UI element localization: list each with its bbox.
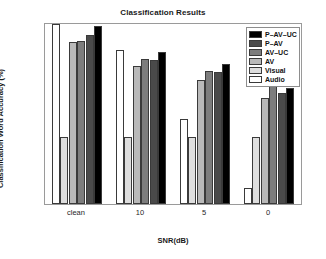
chart-figure: Classification Results Classification Wo… bbox=[0, 0, 326, 259]
legend-swatch-icon bbox=[249, 49, 262, 56]
x-axis-tick-label: 0 bbox=[248, 208, 288, 217]
x-axis-tick bbox=[205, 23, 206, 24]
bar-group bbox=[116, 24, 167, 204]
bar-av-10 bbox=[133, 66, 141, 204]
x-axis-tick-label: 5 bbox=[184, 208, 224, 217]
y-axis-tick bbox=[44, 96, 45, 97]
x-axis-tick bbox=[269, 204, 270, 205]
legend-item-av-uc[interactable]: AV–UC bbox=[249, 48, 297, 57]
legend-item-label: P–AV–UC bbox=[265, 30, 297, 39]
bar-p-av-10 bbox=[150, 60, 158, 204]
legend-item-av[interactable]: AV bbox=[249, 57, 297, 66]
bar-audio-0 bbox=[244, 188, 252, 204]
bar-av-uc-5 bbox=[205, 71, 213, 204]
chart-legend: P–AV–UCP–AVAV–UCAVVisualAudio bbox=[246, 27, 300, 87]
bar-group bbox=[52, 24, 103, 204]
x-axis-tick bbox=[77, 204, 78, 205]
x-axis-tick bbox=[269, 23, 270, 24]
bar-audio-clean bbox=[52, 24, 60, 204]
legend-item-p-av-uc[interactable]: P–AV–UC bbox=[249, 30, 297, 39]
bar-group bbox=[180, 24, 231, 204]
legend-item-label: Visual bbox=[265, 66, 286, 75]
legend-swatch-icon bbox=[249, 58, 262, 65]
bar-av-0 bbox=[261, 98, 269, 204]
x-axis-tick bbox=[77, 23, 78, 24]
y-axis-tick bbox=[44, 168, 45, 169]
y-axis-title: Classification Word Accuracy (%) bbox=[0, 48, 5, 208]
bar-p-av-5 bbox=[214, 72, 222, 204]
bar-p-av-uc-5 bbox=[222, 64, 230, 204]
bar-av-uc-10 bbox=[141, 59, 149, 204]
bar-av-clean bbox=[69, 42, 77, 204]
legend-item-audio[interactable]: Audio bbox=[249, 75, 297, 84]
bar-p-av-uc-10 bbox=[158, 52, 166, 204]
x-axis-tick-label: clean bbox=[56, 208, 96, 217]
bar-visual-10 bbox=[124, 137, 132, 204]
x-axis-tick-label: 10 bbox=[120, 208, 160, 217]
bar-visual-5 bbox=[188, 137, 196, 204]
y-axis-tick bbox=[44, 132, 45, 133]
bar-p-av-0 bbox=[278, 93, 286, 204]
y-axis-tick bbox=[301, 96, 302, 97]
x-axis-tick bbox=[141, 23, 142, 24]
y-axis-tick bbox=[301, 132, 302, 133]
legend-swatch-icon bbox=[249, 31, 262, 38]
legend-item-label: P–AV bbox=[265, 39, 283, 48]
y-axis-tick bbox=[301, 24, 302, 25]
y-axis-tick bbox=[301, 60, 302, 61]
bar-av-uc-0 bbox=[269, 83, 277, 204]
bar-audio-10 bbox=[116, 50, 124, 204]
bar-av-uc-clean bbox=[77, 41, 85, 204]
legend-item-label: AV–UC bbox=[265, 48, 288, 57]
legend-item-visual[interactable]: Visual bbox=[249, 66, 297, 75]
y-axis-tick bbox=[301, 168, 302, 169]
bar-av-5 bbox=[197, 80, 205, 204]
legend-item-label: AV bbox=[265, 57, 274, 66]
bar-p-av-uc-0 bbox=[286, 88, 294, 204]
x-axis-tick bbox=[141, 204, 142, 205]
chart-title: Classification Results bbox=[0, 8, 326, 17]
legend-swatch-icon bbox=[249, 67, 262, 74]
legend-item-label: Audio bbox=[265, 75, 285, 84]
bar-audio-5 bbox=[180, 119, 188, 204]
legend-swatch-icon bbox=[249, 76, 262, 83]
y-axis-tick bbox=[44, 24, 45, 25]
legend-item-p-av[interactable]: P–AV bbox=[249, 39, 297, 48]
bar-p-av-uc-clean bbox=[94, 26, 102, 204]
legend-swatch-icon bbox=[249, 40, 262, 47]
y-axis-tick bbox=[44, 60, 45, 61]
y-axis-tick bbox=[301, 204, 302, 205]
y-axis-tick bbox=[44, 204, 45, 205]
bar-visual-clean bbox=[60, 137, 68, 204]
bar-p-av-clean bbox=[86, 35, 94, 204]
x-axis-tick bbox=[205, 204, 206, 205]
bar-visual-0 bbox=[252, 137, 260, 204]
x-axis-title: SNR(dB) bbox=[44, 236, 302, 245]
